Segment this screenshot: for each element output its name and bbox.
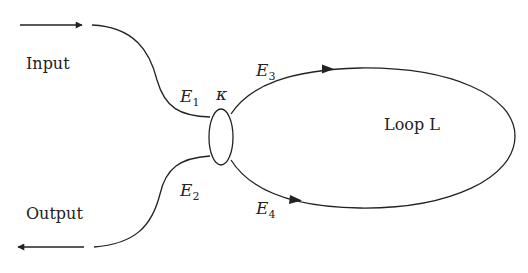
lower-direction-arrow-icon — [289, 195, 302, 204]
loop-label: Loop L — [384, 115, 440, 134]
output-label: Output — [26, 204, 83, 223]
diagram-canvas: Input Output Loop L κ E1 E2 E3 E4 — [0, 0, 528, 273]
coupler-ellipse — [209, 109, 233, 165]
input-label: Input — [26, 54, 70, 73]
loop-resonator-diagram: Input Output Loop L κ E1 E2 E3 E4 — [0, 0, 528, 273]
field-e2-label: E2 — [179, 180, 199, 203]
loop-lower-branch — [231, 136, 515, 208]
field-e1-label: E1 — [179, 86, 199, 109]
upper-direction-arrow-icon — [322, 65, 334, 74]
coupling-coefficient-label: κ — [215, 84, 227, 104]
field-e4-label: E4 — [255, 198, 275, 221]
field-e3-label: E3 — [255, 60, 275, 83]
